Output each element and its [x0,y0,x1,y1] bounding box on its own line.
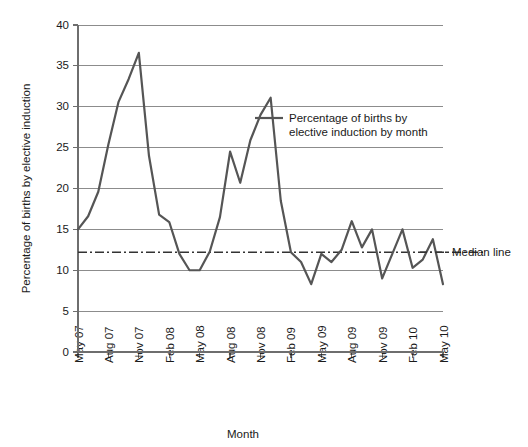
y-tick-label: 10 [56,264,69,276]
legend-series-label-line2: elective induction by month [289,126,428,138]
median-legend-label: Median line [452,246,511,258]
x-tick-label: Aug 08 [225,327,237,363]
series-line-elective-induction [78,53,443,284]
y-tick-label: 15 [56,223,69,235]
x-tick-label: Nov 08 [255,327,267,363]
line-chart: 0510152025303540 May 07Aug 07Nov 07Feb 0… [0,0,528,447]
x-tick-label: May 09 [316,325,328,363]
chart-container: 0510152025303540 May 07Aug 07Nov 07Feb 0… [0,0,528,447]
tick-marks-group [73,25,443,358]
x-tick-label: Nov 07 [133,327,145,363]
y-axis-title: Percentage of births by elective inducti… [20,84,32,294]
x-tick-label: Feb 10 [407,327,419,363]
x-tick-label: Feb 09 [285,327,297,363]
y-tick-label: 0 [63,346,69,358]
x-tick-label: Feb 08 [164,327,176,363]
x-tick-label: May 10 [438,325,450,363]
median-legend: Median line [420,246,511,258]
x-tick-label: Aug 07 [103,327,115,363]
legend-series-label-line1: Percentage of births by [289,112,408,124]
y-tick-label: 30 [56,100,69,112]
y-tick-label: 5 [63,305,69,317]
x-tick-label: Aug 09 [346,327,358,363]
x-tick-label: May 08 [194,325,206,363]
y-axis-tick-labels: 0510152025303540 [56,19,69,358]
y-tick-label: 20 [56,182,69,194]
legend: Percentage of births by elective inducti… [255,112,428,138]
x-tick-label: Nov 09 [377,327,389,363]
x-axis-title: Month [227,428,259,440]
x-axis-tick-labels: May 07Aug 07Nov 07Feb 08May 08Aug 08Nov … [73,325,450,363]
y-tick-label: 35 [56,59,69,71]
y-tick-label: 40 [56,19,69,31]
y-tick-label: 25 [56,141,69,153]
